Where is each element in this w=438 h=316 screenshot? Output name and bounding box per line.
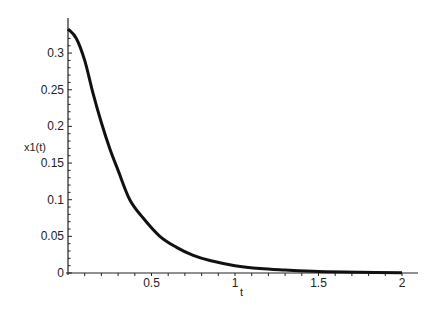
y-tick-label: 0.1 xyxy=(47,193,64,207)
y-tick-label: 0.15 xyxy=(41,156,65,170)
y-tick-label: 0 xyxy=(57,266,64,280)
x-axis-title: t xyxy=(240,286,243,298)
plot-area: 00.050.10.150.20.250.3 0.511.52 x1(t) t xyxy=(0,0,438,316)
x-tick-label: 1.5 xyxy=(310,276,327,290)
y-axis-ticks: 00.050.10.150.20.250.3 xyxy=(41,31,72,280)
y-tick-label: 0.05 xyxy=(41,229,65,243)
data-line-x1 xyxy=(68,29,402,273)
x-tick-label: 0.5 xyxy=(143,276,160,290)
y-tick-label: 0.25 xyxy=(41,83,65,97)
x-tick-label: 1 xyxy=(232,276,239,290)
y-tick-label: 0.3 xyxy=(47,46,64,60)
y-tick-label: 0.2 xyxy=(47,119,64,133)
x-axis-ticks: 0.511.52 xyxy=(85,273,406,290)
y-axis-title: x1(t) xyxy=(24,141,46,153)
x-tick-label: 2 xyxy=(399,276,406,290)
